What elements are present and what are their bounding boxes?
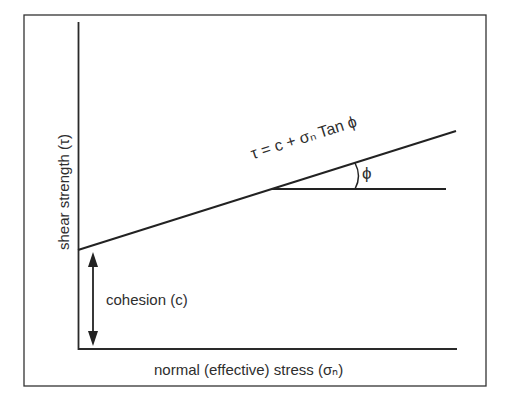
- angle-label: ϕ: [362, 164, 372, 184]
- diagram-canvas: [0, 0, 506, 408]
- angle-arc-icon: [355, 163, 359, 189]
- arrow-up-icon: [88, 252, 98, 267]
- cohesion-label: cohesion (c): [106, 291, 188, 308]
- arrow-down-icon: [88, 331, 98, 346]
- y-axis-label: shear strength (τ): [55, 134, 72, 250]
- x-axis-label: normal (effective) stress (σₙ): [154, 361, 343, 379]
